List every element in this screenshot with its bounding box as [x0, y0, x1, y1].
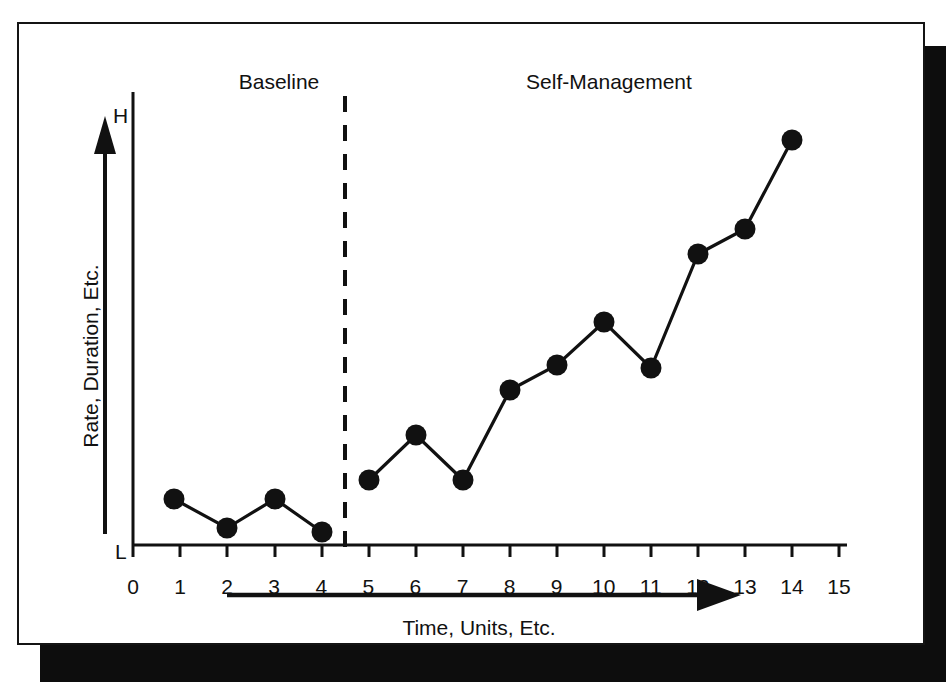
x-tick-label: 9 — [542, 575, 572, 599]
figure-screenshot: Baseline Self-Management H L Rate, Durat… — [0, 0, 946, 682]
data-point — [641, 358, 662, 379]
y-axis-title: Rate, Duration, Etc. — [79, 226, 103, 486]
x-tick-label: 10 — [589, 575, 619, 599]
x-tick-label: 1 — [165, 575, 195, 599]
figure-card: Baseline Self-Management H L Rate, Durat… — [17, 22, 925, 645]
x-tick-label: 7 — [447, 575, 477, 599]
data-point — [359, 470, 380, 491]
series-markers-treatment — [359, 130, 803, 491]
y-axis-low-marker: L — [115, 540, 127, 564]
data-point — [217, 518, 238, 539]
x-tick-label: 8 — [495, 575, 525, 599]
data-point — [500, 380, 521, 401]
x-tick-label: 5 — [353, 575, 383, 599]
series-path-baseline — [174, 499, 322, 532]
x-axis-title: Time, Units, Etc. — [349, 616, 609, 640]
data-point — [782, 130, 803, 151]
x-axis-ticks — [133, 545, 839, 557]
x-tick-label: 15 — [824, 575, 854, 599]
data-point — [735, 219, 756, 240]
phase-label-baseline: Baseline — [199, 70, 359, 94]
x-tick-label: 4 — [306, 575, 336, 599]
x-tick-label: 12 — [683, 575, 713, 599]
plot-area: Baseline Self-Management H L Rate, Durat… — [19, 24, 923, 643]
series-path-treatment — [369, 140, 792, 480]
data-point — [312, 522, 333, 543]
x-tick-label: 11 — [636, 575, 666, 599]
data-point — [265, 489, 286, 510]
x-tick-label: 3 — [259, 575, 289, 599]
x-tick-label: 0 — [118, 575, 148, 599]
data-point — [594, 312, 615, 333]
x-tick-label: 2 — [212, 575, 242, 599]
chart-canvas — [19, 24, 923, 643]
phase-label-treatment: Self-Management — [459, 70, 759, 94]
x-tick-label: 14 — [777, 575, 807, 599]
x-tick-label: 13 — [730, 575, 760, 599]
data-point — [164, 489, 185, 510]
data-point — [688, 244, 709, 265]
x-tick-label: 6 — [400, 575, 430, 599]
data-point — [406, 425, 427, 446]
y-axis-high-marker: H — [113, 104, 128, 128]
data-point — [547, 355, 568, 376]
data-point — [453, 470, 474, 491]
